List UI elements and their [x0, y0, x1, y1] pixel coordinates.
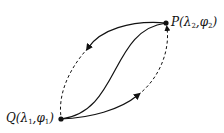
point-Q-name: Q: [6, 111, 16, 125]
phi-symbol: φ: [200, 15, 208, 29]
lambda-symbol: λ: [21, 111, 29, 125]
point-Q-label: Q(λ1,φ1): [6, 112, 54, 126]
geodesic-paths-diagram: P(λ2,φ2) Q(λ1,φ1): [0, 0, 224, 133]
point-P-label: P(λ2,φ2): [171, 16, 217, 30]
lower-right-solid-arc: [61, 95, 138, 119]
point-Q-dot: [58, 116, 63, 121]
lower-right-dashed-arc: [138, 28, 168, 95]
point-P-name: P: [171, 15, 179, 29]
point-P-dot: [163, 20, 168, 25]
phi-symbol: φ: [36, 111, 44, 125]
phi-subscript: 1: [45, 118, 49, 126]
upper-left-dashed-arc: [60, 48, 88, 117]
middle-s-curve: [61, 23, 166, 119]
lambda-subscript: 1: [28, 118, 32, 126]
phi-subscript: 2: [208, 22, 212, 30]
lambda-subscript: 2: [191, 22, 195, 30]
